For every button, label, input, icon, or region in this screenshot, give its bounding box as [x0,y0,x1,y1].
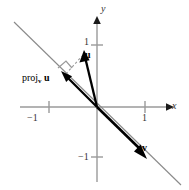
x-axis-label: x [172,101,176,111]
dashed-projection-connector [64,55,83,76]
projection-label-operand: u [44,72,50,83]
vector-u-label: u [85,50,91,60]
y-axis-tick-label-negative-1: −1 [78,152,89,162]
projection-label: projv u [22,73,50,85]
x-axis-tick-label-1: 1 [142,113,147,123]
projection-label-prefix: proj [22,72,38,83]
y-axis-label: y [101,4,105,14]
vector-projection-figure: x y 1 −1 1 −1 u v projv u [0,0,189,190]
vector-v-label: v [142,143,147,153]
right-angle-marker [58,61,72,68]
x-axis-tick-label-negative-1: −1 [27,113,38,123]
y-axis-arrowhead [93,16,101,24]
diagram-canvas [0,0,189,190]
vector-v-shaft [97,107,139,148]
y-axis-tick-label-1: 1 [84,37,89,47]
